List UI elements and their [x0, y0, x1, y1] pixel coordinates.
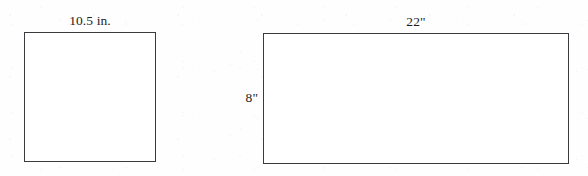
square-top-dimension-label: 10.5 in.	[24, 13, 156, 29]
rectangle-left-dimension-label: 8"	[232, 90, 258, 106]
rectangle-top-dimension-label: 22"	[263, 14, 569, 30]
square-shape	[24, 32, 156, 162]
figure-canvas: 10.5 in. 22" 8"	[0, 0, 588, 176]
rectangle-shape	[263, 33, 569, 164]
